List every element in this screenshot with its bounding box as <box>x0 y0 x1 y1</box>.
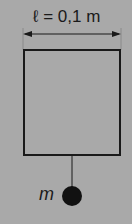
mass-ball <box>62 186 82 206</box>
dimension-arrow <box>23 31 121 37</box>
square-loop <box>24 50 120 155</box>
arrowhead-right-icon <box>112 31 121 37</box>
dimension-label: ℓ = 0,1 m <box>33 8 100 25</box>
arrowhead-left-icon <box>23 31 32 37</box>
mass-label: m <box>39 185 54 203</box>
diagram-canvas <box>0 0 132 224</box>
